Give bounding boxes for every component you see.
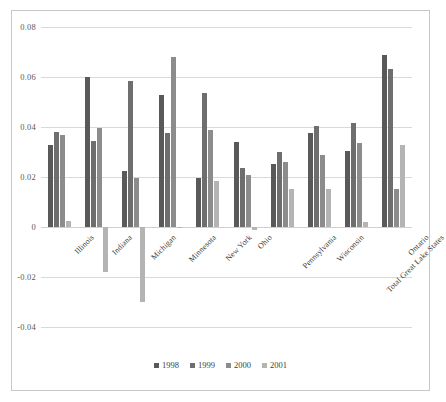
bar-2000-minnesota	[171, 57, 176, 227]
bar-1998-total-great-lake-states	[345, 151, 350, 227]
bar-group	[338, 27, 375, 327]
bar-1999-michigan	[128, 81, 133, 227]
bar-group	[78, 27, 115, 327]
bar-2000-illinois	[60, 135, 65, 227]
bar-2001-ohio	[252, 227, 257, 230]
y-axis-tick-label: -0.04	[17, 322, 36, 332]
bar-1998-minnesota	[159, 95, 164, 227]
bar-2000-ohio	[246, 175, 251, 228]
bar-2001-michigan	[140, 227, 145, 302]
bar-2000-ontario	[394, 189, 399, 227]
legend-item-2001[interactable]: 2001	[262, 360, 287, 370]
bar-2001-indiana	[103, 227, 108, 272]
y-axis-tick-label: 0	[32, 222, 36, 232]
bar-2000-total-great-lake-states	[357, 143, 362, 227]
bar-group	[227, 27, 264, 327]
plot-area: 0.080.060.040.020-0.02-0.04	[41, 27, 412, 327]
legend-swatch-icon	[154, 363, 159, 368]
y-axis-tick-label: 0.02	[20, 172, 36, 182]
bar-2000-wisconsin	[320, 155, 325, 228]
bar-2000-indiana	[97, 128, 102, 227]
y-axis-tick-label: -0.02	[17, 272, 36, 282]
bar-2000-new-york	[208, 130, 213, 227]
y-axis-tick-label: 0.08	[20, 22, 36, 32]
bar-2001-pennsylvania	[289, 189, 294, 227]
bar-1998-wisconsin	[308, 133, 313, 227]
bar-2001-wisconsin	[326, 189, 331, 227]
bar-2001-minnesota	[177, 227, 182, 228]
bar-1999-wisconsin	[314, 126, 319, 227]
legend-label: 2000	[234, 360, 251, 370]
bar-group	[189, 27, 226, 327]
legend-label: 1999	[198, 360, 215, 370]
bar-2001-new-york	[214, 181, 219, 227]
bar-1998-ontario	[382, 55, 387, 228]
legend-item-1999[interactable]: 1999	[190, 360, 215, 370]
bar-1998-new-york	[196, 178, 201, 227]
legend-swatch-icon	[262, 363, 267, 368]
y-axis-tick-label: 0.04	[20, 122, 36, 132]
bar-2001-ontario	[400, 145, 405, 228]
gridline	[41, 327, 412, 328]
bar-1998-ohio	[234, 142, 239, 227]
bar-1999-pennsylvania	[277, 152, 282, 227]
legend-label: 1998	[162, 360, 179, 370]
bar-1999-ontario	[388, 69, 393, 227]
bar-2001-illinois	[66, 221, 71, 227]
legend-item-2000[interactable]: 2000	[226, 360, 251, 370]
bar-group	[115, 27, 152, 327]
bar-group	[152, 27, 189, 327]
bar-1998-illinois	[48, 145, 53, 228]
bar-1999-ohio	[240, 168, 245, 227]
chart-legend: 1998199920002001	[0, 360, 441, 370]
bar-2001-total-great-lake-states	[363, 222, 368, 227]
legend-swatch-icon	[226, 363, 231, 368]
bar-1999-new-york	[202, 93, 207, 227]
bar-2000-pennsylvania	[283, 162, 288, 227]
bar-1999-indiana	[91, 141, 96, 227]
bar-1999-total-great-lake-states	[351, 123, 356, 227]
bar-1999-minnesota	[165, 133, 170, 228]
bar-group	[264, 27, 301, 327]
bar-2000-michigan	[134, 178, 139, 227]
bar-1998-pennsylvania	[271, 164, 276, 227]
legend-swatch-icon	[190, 363, 195, 368]
bar-1999-illinois	[54, 132, 59, 227]
legend-item-1998[interactable]: 1998	[154, 360, 179, 370]
bar-group	[41, 27, 78, 327]
bar-1998-michigan	[122, 171, 127, 227]
y-axis-tick-label: 0.06	[20, 72, 36, 82]
bar-1998-indiana	[85, 77, 90, 228]
legend-label: 2001	[270, 360, 287, 370]
bar-group	[301, 27, 338, 327]
